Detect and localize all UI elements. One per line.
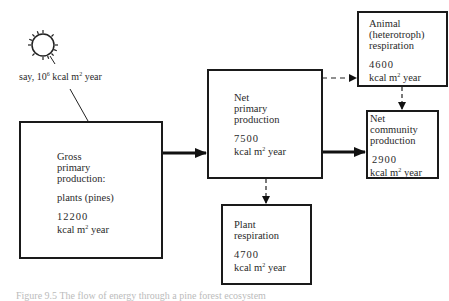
net-primary-production-text: Net primary production 7500 kcal m2 year (234, 92, 286, 157)
unit-suffix: year (88, 224, 109, 235)
unit-prefix: kcal m (234, 262, 262, 273)
net-primary-title-line-1: Net (234, 92, 286, 103)
animal-title-line-1: Animal (369, 18, 424, 29)
net-community-title-line-1: Net (370, 113, 422, 124)
net-community-production-text: Net community production 2900 kcal m2 ye… (370, 113, 422, 178)
net-primary-title-line-3: production (234, 114, 286, 125)
unit-prefix: kcal m (369, 72, 397, 83)
animal-title-line-3: respiration (369, 40, 424, 51)
gross-title-line-3: production: (57, 173, 114, 184)
sun-label-prefix: say, 10 (19, 71, 47, 82)
unit-suffix: year (265, 146, 286, 157)
plant-resp-value: 4700 (234, 249, 286, 260)
plant-resp-unit: kcal m2 year (234, 260, 286, 273)
gross-primary-production-text: Gross primary production: plants (pines)… (57, 151, 114, 235)
unit-suffix: year (400, 72, 421, 83)
unit-suffix: year (401, 167, 422, 178)
sun-energy-label: say, 106 kcal m2 year (19, 71, 102, 82)
gross-title-line-1: Gross (57, 151, 114, 162)
animal-unit: kcal m2 year (369, 70, 424, 83)
sun-label-end: year (82, 71, 102, 82)
sun-icon (28, 30, 58, 64)
gross-unit: kcal m2 year (57, 222, 114, 235)
sun-label-suffix: kcal m (50, 71, 79, 82)
plant-resp-title-line-1: Plant (234, 219, 286, 230)
net-primary-unit: kcal m2 year (234, 144, 286, 157)
gross-value: 12200 (57, 211, 114, 222)
gross-title-line-2: primary (57, 162, 114, 173)
plant-respiration-text: Plant respiration 4700 kcal m2 year (234, 219, 286, 273)
animal-title-line-2: (heterotroph) (369, 29, 424, 40)
sun-to-gross-line (70, 89, 88, 121)
plant-resp-title-line-2: respiration (234, 230, 286, 241)
unit-prefix: kcal m (234, 146, 262, 157)
unit-prefix: kcal m (370, 167, 398, 178)
unit-prefix: kcal m (57, 224, 85, 235)
net-primary-value: 7500 (234, 133, 286, 144)
figure-caption: Figure 9.5 The flow of energy through a … (16, 290, 266, 301)
unit-suffix: year (265, 262, 286, 273)
net-community-unit: kcal m2 year (370, 165, 422, 178)
net-community-title-line-3: production (370, 135, 422, 146)
net-community-value: 2900 (370, 154, 422, 165)
animal-respiration-text: Animal (heterotroph) respiration 4600 kc… (369, 18, 424, 83)
animal-value: 4600 (369, 59, 424, 70)
net-community-title-line-2: community (370, 124, 422, 135)
net-primary-title-line-2: primary (234, 103, 286, 114)
gross-subtitle: plants (pines) (57, 192, 114, 203)
